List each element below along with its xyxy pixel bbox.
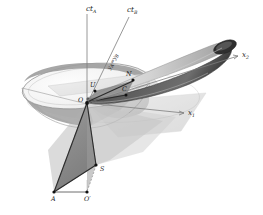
point-label-o: O xyxy=(78,96,84,104)
point-marker-a xyxy=(52,190,55,193)
point-label-o-prime-mark: ′ xyxy=(89,195,91,203)
axis-label-x-2: x2 xyxy=(242,50,249,60)
point-label-c: C xyxy=(122,85,127,93)
point-marker-o-prime xyxy=(85,190,88,193)
point-marker-o xyxy=(85,101,89,105)
axis-label-x-2-sub: 2 xyxy=(245,55,249,60)
point-marker-n xyxy=(131,78,134,81)
point-label-o-prime: O′ xyxy=(84,195,91,203)
point-marker-u xyxy=(94,90,97,93)
point-marker-s xyxy=(94,163,97,166)
point-label-s: S xyxy=(100,165,105,173)
figure-canvas: yA=yB ctA ctB x2 x1 xyxy=(0,0,263,215)
light-cone-figure: yA=yB ctA ctB x2 x1 xyxy=(0,0,263,215)
axis-label-ct-a: ctA xyxy=(86,4,97,14)
point-label-u: U xyxy=(90,81,96,89)
axis-label-x-1-sub: 1 xyxy=(192,113,195,118)
point-label-a: A xyxy=(50,195,56,203)
point-marker-c xyxy=(125,94,128,97)
axis-label-ct-a-sub: A xyxy=(92,9,97,14)
point-label-n: N xyxy=(125,70,132,78)
axis-label-ct-b-sub: B xyxy=(133,10,138,15)
axis-label-ct-b: ctB xyxy=(127,5,138,15)
